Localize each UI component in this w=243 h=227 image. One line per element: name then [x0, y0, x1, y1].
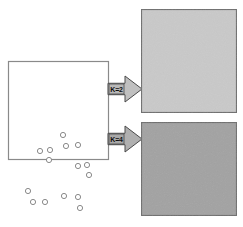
data-point — [84, 162, 89, 167]
data-point — [60, 132, 65, 137]
data-point — [30, 199, 35, 204]
data-point — [37, 148, 42, 153]
k2-result-panel-background — [142, 10, 237, 113]
diagram-canvas: K=2K=4 — [0, 0, 242, 226]
data-point — [46, 157, 51, 162]
arrow-k2-label: K=2 — [110, 86, 123, 93]
k2-result-panel — [142, 10, 243, 113]
data-point — [75, 142, 80, 147]
data-point — [86, 172, 91, 177]
data-point — [63, 143, 68, 148]
data-point — [75, 163, 80, 168]
data-point — [61, 193, 66, 198]
data-point — [75, 194, 80, 199]
data-point — [25, 188, 30, 193]
k4-result-panel-background — [142, 123, 237, 216]
clustering-diagram: K=2K=4 — [0, 0, 242, 226]
data-point — [77, 205, 82, 210]
k4-result-panel — [142, 123, 243, 227]
source-data-box — [9, 62, 109, 160]
data-point — [47, 147, 52, 152]
arrow-k4-label: K=4 — [110, 136, 123, 143]
data-point — [42, 199, 47, 204]
